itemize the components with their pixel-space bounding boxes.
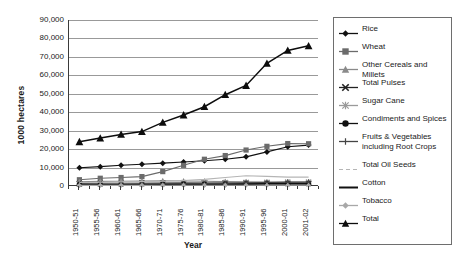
x-axis-tick [183, 186, 184, 190]
x-axis-tick [297, 186, 298, 189]
triangle-black-marker-icon [337, 215, 360, 226]
legend-item[interactable]: Other Cereals and Millets [337, 60, 451, 79]
chart-legend: RiceWheatOther Cereals and MilletsTotal … [333, 17, 452, 245]
y-axis-tick-labels: 90,00080,00070,00060,00050,00040,00030,0… [22, 14, 64, 194]
x-axis-tick [224, 186, 225, 190]
x-axis-tick [287, 186, 288, 190]
legend-item-label: Other Cereals and Millets [360, 60, 451, 79]
y-axis-tick-label: 40,000 [40, 108, 64, 116]
legend-item[interactable]: Wheat [337, 42, 451, 54]
y-axis-tick-label: 50,000 [40, 90, 64, 98]
dash-marker-icon [337, 161, 360, 172]
line-marker-icon [337, 179, 360, 190]
series-rice [76, 142, 311, 171]
x-axis-tick-label: 1955-56 [91, 192, 103, 236]
x-axis-tick [245, 186, 246, 190]
legend-item-label: Total [360, 214, 379, 224]
x-axis-tick-label: 2000-01 [279, 192, 291, 236]
legend-item[interactable]: Total Pulses [337, 78, 451, 90]
legend-item-label: Cotton [360, 178, 386, 188]
legend-item-label: Sugar Cane [360, 96, 405, 106]
x-axis-tick-label: 1970-71 [154, 192, 166, 236]
legend-item[interactable]: Sugar Cane [337, 96, 451, 108]
square-marker-icon [337, 43, 360, 54]
x-axis-tick-label: 1990-91 [237, 192, 249, 236]
legend-item[interactable]: Cotton [337, 178, 451, 190]
chart-screenshot: 1000 hectares 90,00080,00070,00060,00050… [0, 0, 476, 267]
x-axis-tick [131, 186, 132, 189]
legend-item[interactable]: Total Oil Seeds [337, 160, 451, 172]
x-axis-tick [276, 186, 277, 189]
legend-item-label: Total Oil Seeds [360, 160, 416, 170]
x-axis-tick [203, 186, 204, 190]
x-axis-tick-label: 2001-02 [300, 192, 312, 236]
x-axis-tick [214, 186, 215, 189]
y-axis-tick-label: 70,000 [40, 53, 64, 61]
x-axis-tick [99, 186, 100, 190]
x-axis-title: Year [68, 240, 318, 250]
x-axis-tick-label: 1950-51 [70, 192, 82, 236]
x-axis-tick [120, 186, 121, 190]
x-axis-tick [110, 186, 111, 189]
legend-item-label: Wheat [360, 42, 385, 52]
x-axis-tick [78, 186, 79, 190]
y-axis-tick-label: 0 [60, 182, 64, 190]
x-axis-tick [308, 186, 309, 190]
x-axis-tick [318, 186, 319, 189]
x-axis-tick-label: 1985-86 [216, 192, 228, 236]
x-axis-tick-label: 1965-66 [133, 192, 145, 236]
x-axis-tick-labels: 1950-511955-561960-611965-661970-711975-… [68, 192, 318, 236]
x-axis-tick [162, 186, 163, 190]
cross-marker-icon [337, 79, 360, 90]
x-axis-tick [256, 186, 257, 189]
x-axis-tick [193, 186, 194, 189]
series-canvas [69, 20, 319, 186]
y-axis-tick-label: 60,000 [40, 71, 64, 79]
legend-item-label: Tobacco [360, 196, 392, 206]
diamond-marker-icon [337, 25, 360, 36]
x-axis-tick-label: 1960-61 [112, 192, 124, 236]
legend-item[interactable]: Tobacco [337, 196, 451, 208]
legend-item[interactable]: Condiments and Spices [337, 114, 451, 126]
y-axis-tick-label: 20,000 [40, 145, 64, 153]
legend-item[interactable]: Fruits & Vegetables including Root Crops [337, 132, 451, 151]
legend-item-label: Rice [360, 24, 378, 34]
series-total [76, 42, 313, 145]
legend-item[interactable]: Total [337, 214, 451, 226]
star-marker-icon [337, 97, 360, 108]
x-axis-tick-label: 1995-96 [258, 192, 270, 236]
legend-item-label: Total Pulses [360, 78, 405, 88]
circle-marker-icon [337, 115, 360, 126]
plus-marker-icon [337, 133, 360, 144]
x-axis-tick [266, 186, 267, 190]
x-axis-ticks [68, 186, 318, 191]
y-axis-tick-label: 90,000 [40, 16, 64, 24]
x-axis-tick [235, 186, 236, 189]
x-axis-tick-label: 1980-81 [195, 192, 207, 236]
y-axis-tick-label: 30,000 [40, 127, 64, 135]
plot-area [68, 20, 318, 186]
y-axis-tick-label: 10,000 [40, 164, 64, 172]
y-axis-tick-label: 80,000 [40, 34, 64, 42]
x-axis-tick [141, 186, 142, 190]
legend-item[interactable]: Rice [337, 24, 451, 36]
x-axis-tick [89, 186, 90, 189]
diamond-gray-marker-icon [337, 197, 360, 208]
legend-item-label: Fruits & Vegetables including Root Crops [360, 132, 451, 151]
x-axis-tick-label: 1975-76 [175, 192, 187, 236]
x-axis-tick [68, 186, 69, 189]
x-axis-tick [151, 186, 152, 189]
triangle-marker-icon [337, 61, 360, 72]
x-axis-tick [172, 186, 173, 189]
legend-item-label: Condiments and Spices [360, 114, 447, 124]
